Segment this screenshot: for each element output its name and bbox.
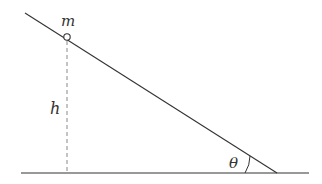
mass-label: m [61,12,75,30]
inclined-plane-diagram: m h θ [0,0,322,184]
mass-point [64,34,70,40]
incline-line [25,13,277,173]
angle-label: θ [229,154,238,172]
angle-arc [245,156,250,173]
height-label: h [50,99,60,118]
